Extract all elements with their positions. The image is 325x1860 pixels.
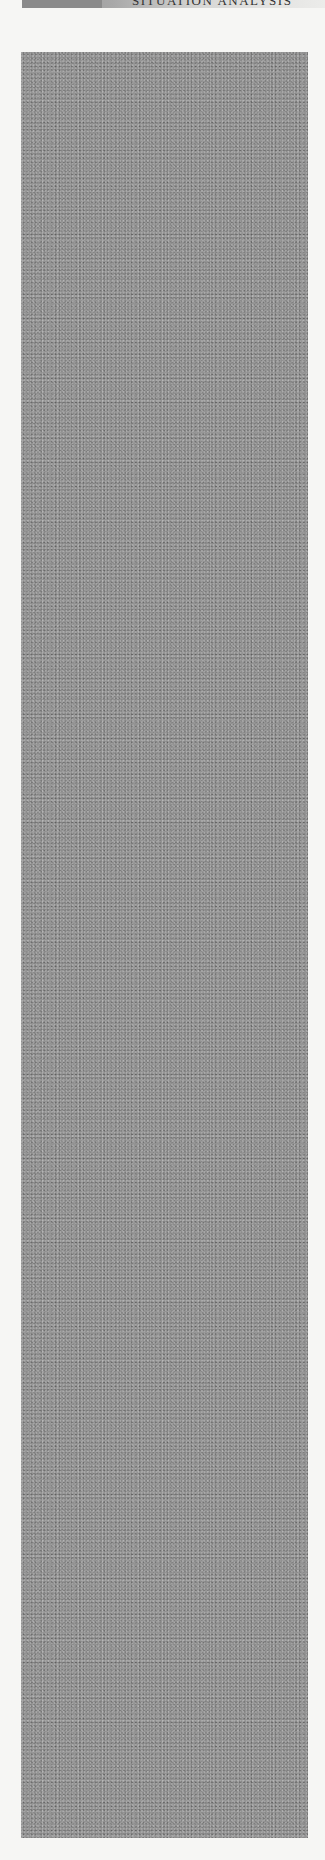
- running-header: SITUATION ANALYSIS: [22, 0, 325, 8]
- header-page-tab: [22, 0, 102, 8]
- running-title: SITUATION ANALYSIS: [132, 0, 292, 8]
- noise-figure: [21, 52, 308, 1838]
